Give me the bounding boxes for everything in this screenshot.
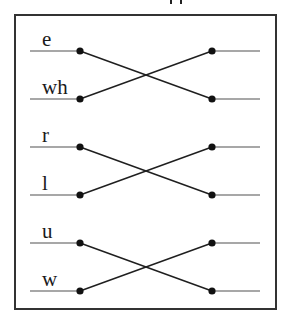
row-label: w	[42, 267, 58, 291]
junction-dot	[76, 47, 83, 54]
junction-dot	[208, 143, 215, 150]
row-label: u	[42, 219, 53, 243]
crossing-pair-3: uw	[30, 219, 260, 295]
pairs-layer: ewhrluw	[30, 27, 260, 295]
junction-dot	[208, 191, 215, 198]
row-label: wh	[42, 75, 68, 99]
junction-dot	[76, 143, 83, 150]
crossing-pair-1: ewh	[30, 27, 260, 103]
junction-dot	[76, 95, 83, 102]
row-label: r	[42, 123, 49, 147]
swap-diagram: ewhrluw	[0, 0, 289, 323]
junction-dot	[208, 287, 215, 294]
junction-dot	[208, 239, 215, 246]
crossing-pair-2: rl	[30, 123, 260, 199]
junction-dot	[76, 239, 83, 246]
junction-dot	[208, 47, 215, 54]
row-label: l	[42, 171, 48, 195]
junction-dot	[76, 287, 83, 294]
clipped-heading-fragment	[170, 0, 182, 4]
junction-dot	[76, 191, 83, 198]
junction-dot	[208, 95, 215, 102]
row-label: e	[42, 27, 51, 51]
diagram-frame	[15, 15, 276, 309]
